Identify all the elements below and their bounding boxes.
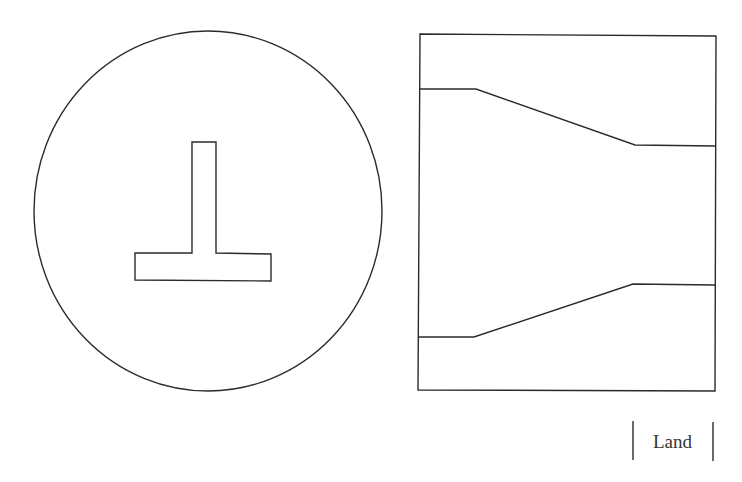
label-text: Land: [653, 431, 693, 452]
upper-profile-line: [419, 89, 716, 146]
left-panel: [34, 31, 382, 391]
right-panel: [418, 34, 716, 391]
land-label: Land: [633, 421, 713, 461]
lower-profile-line: [418, 284, 715, 337]
circle-outline: [34, 31, 382, 391]
diagram-canvas: Land: [0, 0, 742, 482]
inverted-t-shape: [135, 142, 271, 281]
